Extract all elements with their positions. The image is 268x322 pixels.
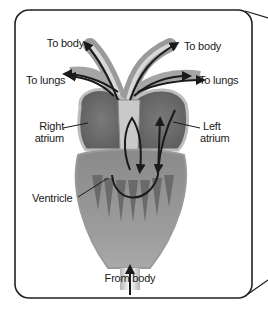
label-left-atrium: Left atrium [200, 120, 229, 144]
label-right-atrium-line1: Right [34, 120, 64, 132]
label-to-body-right: To body [184, 40, 221, 52]
left-atrium-shape [134, 90, 188, 150]
label-right-atrium: Right atrium [34, 120, 64, 144]
label-left-atrium-line2: atrium [200, 132, 229, 144]
heart-diagram: To body To body To lungs To lungs Right … [0, 0, 268, 322]
label-ventricle: Ventricle [32, 192, 72, 204]
label-to-lungs-right: To lungs [199, 74, 238, 86]
label-to-body-left: To body [30, 37, 84, 49]
label-from-body: From body [100, 272, 160, 284]
label-to-lungs-left: To lungs [26, 74, 65, 86]
label-right-atrium-line2: atrium [34, 132, 64, 144]
label-left-atrium-line1: Left [200, 120, 229, 132]
